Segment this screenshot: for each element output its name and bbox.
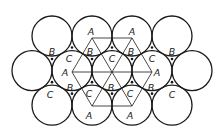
site-label-b: B bbox=[67, 82, 74, 93]
site-label-c: C bbox=[86, 88, 93, 99]
void-dot bbox=[131, 58, 134, 61]
site-label-a: A bbox=[126, 110, 134, 121]
site-label-c: C bbox=[109, 53, 116, 64]
void-dot bbox=[151, 46, 154, 49]
void-dot bbox=[91, 58, 94, 61]
void-dot bbox=[171, 58, 174, 61]
site-label-b: B bbox=[169, 46, 176, 57]
void-dot bbox=[51, 81, 54, 84]
sphere-layer bbox=[12, 16, 212, 125]
void-dot bbox=[151, 92, 154, 95]
void-dot bbox=[91, 81, 94, 84]
site-label-c: C bbox=[47, 89, 54, 100]
site-label-c: C bbox=[127, 88, 134, 99]
site-label-c: C bbox=[149, 53, 156, 64]
site-label-a: A bbox=[153, 67, 161, 78]
sphere bbox=[172, 51, 212, 91]
close-packing-diagram: AABBBBCCCAABBBCCCCAA bbox=[0, 0, 219, 138]
void-dot bbox=[111, 46, 114, 49]
site-label-b: B bbox=[128, 46, 135, 57]
site-label-b: B bbox=[49, 46, 56, 57]
site-label-c: C bbox=[66, 53, 73, 64]
void-dot bbox=[171, 81, 174, 84]
site-label-a: A bbox=[61, 67, 69, 78]
void-dot bbox=[111, 92, 114, 95]
site-label-a: A bbox=[85, 110, 93, 121]
site-label-c: C bbox=[169, 89, 176, 100]
site-label-b: B bbox=[108, 82, 115, 93]
site-label-b: B bbox=[148, 82, 155, 93]
void-dot bbox=[71, 46, 74, 49]
site-label-a: A bbox=[128, 26, 136, 37]
site-label-b: B bbox=[87, 46, 94, 57]
site-label-a: A bbox=[87, 26, 95, 37]
sphere bbox=[12, 51, 52, 91]
void-dot bbox=[131, 81, 134, 84]
void-dot bbox=[51, 58, 54, 61]
void-dot bbox=[71, 92, 74, 95]
